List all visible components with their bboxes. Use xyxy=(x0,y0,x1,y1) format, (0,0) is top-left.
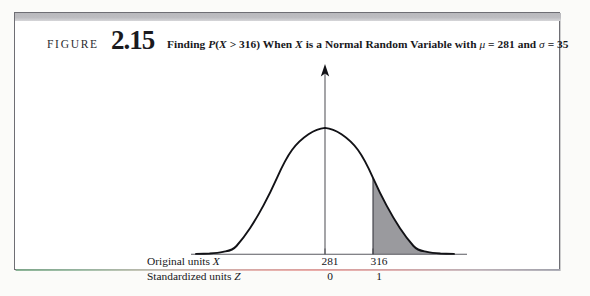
table-row-standardized-units: Standardized units Z 0 1 xyxy=(15,270,561,285)
figure-caption: Finding P(X > 316) When X is a Normal Ra… xyxy=(167,38,569,50)
caption-var-x1: X xyxy=(219,38,227,50)
row-label-standardized-variable: Z xyxy=(234,270,240,282)
row-label-standardized-units: Standardized units Z xyxy=(147,270,241,282)
figure-header: FIGURE 2.15 Finding P(X > 316) When X is… xyxy=(15,21,561,63)
value-standardized-mean: 0 xyxy=(312,270,348,282)
value-original-cutoff: 316 xyxy=(361,255,397,267)
figure-frame: FIGURE 2.15 Finding P(X > 316) When X is… xyxy=(14,12,560,270)
value-standardized-cutoff: 1 xyxy=(361,270,397,282)
row-label-original-units: Original units X xyxy=(147,255,220,267)
normal-curve-plot: Original units X 281 316 Standardized un… xyxy=(15,63,561,271)
caption-part-a: Finding xyxy=(167,38,208,50)
row-label-standardized-text: Standardized units xyxy=(147,270,234,282)
table-row-original-units: Original units X 281 316 xyxy=(15,255,561,270)
figure-number: 2.15 xyxy=(111,25,154,56)
caption-part-d: is a Normal Random Variable with xyxy=(303,38,480,50)
caption-part-c: > 316) When xyxy=(227,38,295,50)
caption-part-e: = 281 and xyxy=(485,38,539,50)
normal-distribution-chart xyxy=(15,63,561,271)
row-label-original-variable: X xyxy=(213,255,220,267)
caption-part-f: = 35 xyxy=(545,38,569,50)
caption-var-x2: X xyxy=(295,38,303,50)
value-original-mean: 281 xyxy=(312,255,348,267)
figure-tag-label: FIGURE xyxy=(47,38,99,50)
shaded-tail-region xyxy=(373,178,454,255)
figure-top-band xyxy=(15,13,561,21)
scan-edge-artifact xyxy=(16,269,560,271)
scanned-page-background: FIGURE 2.15 Finding P(X > 316) When X is… xyxy=(0,0,590,296)
row-label-original-text: Original units xyxy=(147,255,213,267)
